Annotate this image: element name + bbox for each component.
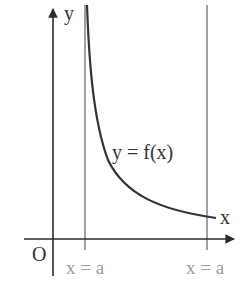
y-axis-label: y [64, 3, 74, 23]
asymptote-label-left: x = a [66, 258, 104, 277]
function-curve [87, 5, 216, 218]
x-axis-label: x [220, 207, 230, 227]
asymptote-label-right: x = a [186, 258, 224, 277]
origin-label: O [32, 244, 46, 264]
curve-label: y = f(x) [112, 142, 173, 162]
